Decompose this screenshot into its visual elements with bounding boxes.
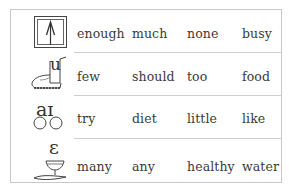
- word-cell: busy: [242, 26, 272, 41]
- word-cell: much: [132, 26, 167, 41]
- phonetic-symbol: ɛ: [49, 136, 59, 158]
- bicycle-ai-icon: aɪ: [22, 96, 66, 138]
- word-cell: many: [77, 159, 112, 174]
- table-row: aɪ try diet little like: [11, 96, 281, 139]
- egg-cup-epsilon-icon: ɛ: [22, 139, 66, 181]
- phonetic-symbol: u: [50, 54, 61, 74]
- word-cell: healthy: [187, 159, 235, 174]
- word-cell: little: [187, 111, 217, 126]
- arrow-up-box-icon: [22, 12, 66, 54]
- word-cell: diet: [132, 111, 157, 126]
- word-cell: none: [187, 26, 218, 41]
- boot-u-icon: u: [22, 53, 66, 95]
- word-cell: few: [77, 69, 100, 84]
- word-cell: enough: [77, 26, 125, 41]
- phonetics-table: enough much none busy u few should too f…: [10, 9, 282, 183]
- word-cell: water: [242, 159, 279, 174]
- word-cell: like: [242, 111, 265, 126]
- table-row: ɛ many any healthy water: [11, 139, 281, 182]
- word-cell: try: [77, 111, 95, 126]
- table-row: u few should too food: [11, 53, 281, 96]
- phonetic-symbol: aɪ: [36, 98, 53, 120]
- word-cell: food: [242, 69, 270, 84]
- table-row: enough much none busy: [11, 10, 281, 53]
- word-cell: any: [132, 159, 155, 174]
- word-cell: too: [187, 69, 207, 84]
- word-cell: should: [132, 69, 175, 84]
